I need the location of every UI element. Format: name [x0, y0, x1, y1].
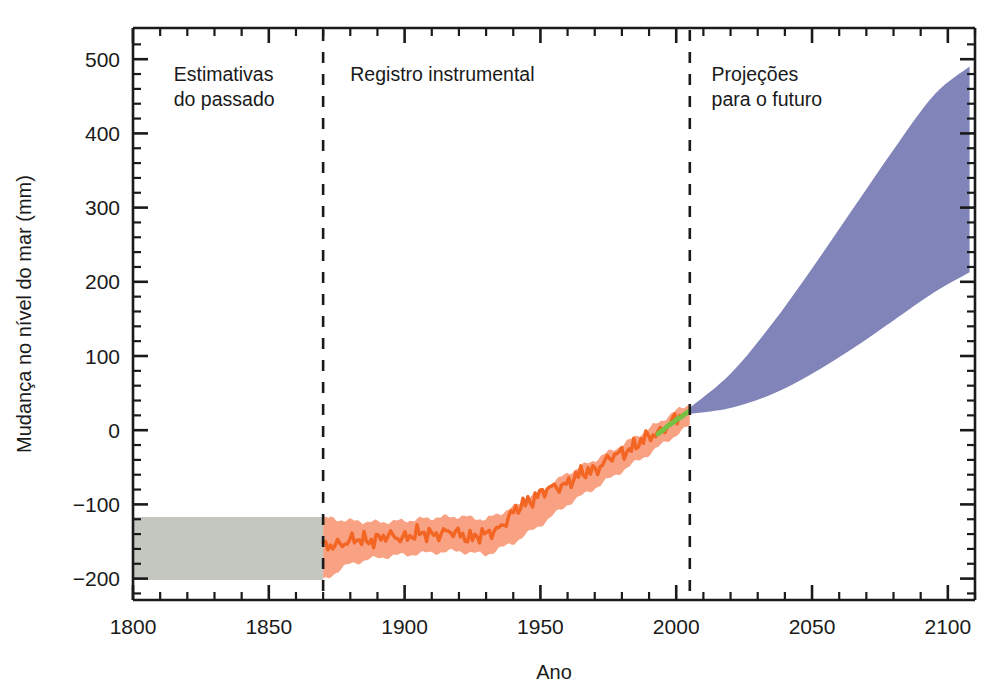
y-tick-label: 500 — [85, 48, 120, 71]
sea-level-chart-figure: 1800185019001950200020502100 −200−100010… — [0, 0, 1007, 700]
past-estimates-label-line: do passado — [174, 88, 275, 110]
x-tick-label: 2000 — [653, 615, 700, 638]
y-tick-label: 100 — [85, 345, 120, 368]
instrumental-record-label-line: Registro instrumental — [350, 63, 534, 85]
x-tick-label: 1800 — [110, 615, 157, 638]
figure-background — [0, 0, 1007, 700]
y-tick-label: 300 — [85, 196, 120, 219]
y-tick-label: 400 — [85, 122, 120, 145]
y-tick-label: 200 — [85, 270, 120, 293]
y-tick-label: −100 — [73, 493, 120, 516]
y-tick-label: 0 — [108, 419, 120, 442]
chart-svg: 1800185019001950200020502100 −200−100010… — [0, 0, 1007, 700]
past-estimates-label-line: Estimativas — [174, 63, 274, 85]
x-tick-label: 1900 — [381, 615, 428, 638]
instrumental-record-label: Registro instrumental — [350, 63, 534, 85]
y-axis-title: Mudança no nível do mar (mm) — [13, 175, 35, 453]
x-tick-label: 1950 — [517, 615, 564, 638]
x-tick-label: 2050 — [789, 615, 836, 638]
y-tick-label: −200 — [73, 567, 120, 590]
x-axis-title: Ano — [536, 661, 572, 683]
x-tick-label: 1850 — [245, 615, 292, 638]
future-projections-label-line: para o futuro — [712, 88, 823, 110]
paleo-estimates-band — [133, 517, 323, 580]
x-tick-label: 2100 — [924, 615, 971, 638]
future-projections-label-line: Projeções — [712, 63, 799, 85]
